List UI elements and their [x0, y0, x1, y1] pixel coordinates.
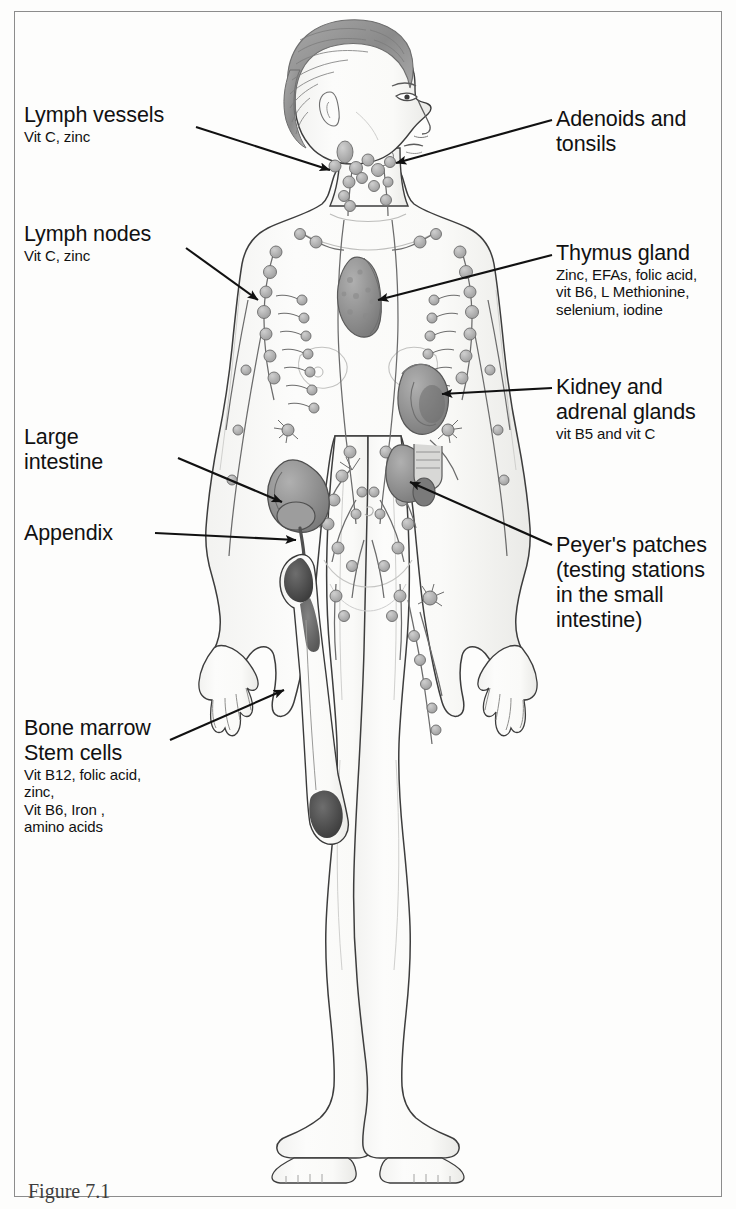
label-bone-marrow-title-line1: Bone marrow — [24, 716, 151, 741]
kidney-adrenal-organ — [398, 364, 449, 434]
hand-right — [478, 645, 537, 735]
label-bone-marrow-title-line2: Stem cells — [24, 741, 151, 766]
figure-caption: Figure 7.1 — [28, 1180, 110, 1203]
label-bone-marrow-sub-2: Vit B6, Iron , — [24, 801, 151, 818]
figure-page: Lymph vessels Vit C, zinc Lymph nodes Vi… — [0, 0, 736, 1209]
hand-left — [199, 645, 258, 735]
label-appendix: Appendix — [24, 521, 113, 546]
label-kidney-adrenal-title-line2: adrenal glands — [556, 400, 696, 425]
foot-right — [380, 1158, 464, 1183]
label-kidney-adrenal-sub-0: vit B5 and vit C — [556, 425, 696, 442]
label-adenoids-tonsils-title-line1: Adenoids and — [556, 107, 686, 132]
label-lymph-vessels-sub-0: Vit C, zinc — [24, 128, 164, 145]
label-peyers-patches-sub-0: (testing stations — [556, 558, 707, 583]
label-thymus-gland-sub-0: Zinc, EFAs, folic acid, — [556, 266, 697, 283]
label-lymph-vessels: Lymph vessels Vit C, zinc — [24, 103, 164, 145]
label-large-intestine: Large intestine — [24, 425, 103, 475]
label-lymph-vessels-title: Lymph vessels — [24, 103, 164, 128]
label-bone-marrow-sub-1: zinc, — [24, 783, 151, 800]
caecum — [277, 502, 315, 530]
label-adenoids-tonsils-title-line2: tonsils — [556, 132, 686, 157]
label-kidney-adrenal: Kidney and adrenal glands vit B5 and vit… — [556, 375, 696, 442]
label-peyers-patches-sub-1: in the small — [556, 583, 707, 608]
label-lymph-nodes-title: Lymph nodes — [24, 222, 151, 247]
label-bone-marrow-sub-3: amino acids — [24, 818, 151, 835]
label-lymph-nodes-sub-0: Vit C, zinc — [24, 247, 151, 264]
label-peyers-patches: Peyer's patches (testing stations in the… — [556, 533, 707, 633]
label-adenoids-tonsils: Adenoids and tonsils — [556, 107, 686, 157]
label-thymus-gland: Thymus gland Zinc, EFAs, folic acid, vit… — [556, 241, 697, 318]
label-thymus-gland-sub-2: selenium, iodine — [556, 301, 697, 318]
label-large-intestine-title-line1: Large — [24, 425, 103, 450]
label-kidney-adrenal-title-line1: Kidney and — [556, 375, 696, 400]
leader-adenoids-tonsils — [396, 120, 552, 163]
body-figure — [155, 20, 552, 1183]
label-peyers-patches-title: Peyer's patches — [556, 533, 707, 558]
label-large-intestine-title-line2: intestine — [24, 450, 103, 475]
peyers-patches-organ — [386, 444, 442, 506]
label-peyers-patches-sub-2: intestine) — [556, 608, 707, 633]
label-bone-marrow-sub-0: Vit B12, folic acid, — [24, 766, 151, 783]
label-bone-marrow: Bone marrow Stem cells Vit B12, folic ac… — [24, 716, 151, 835]
label-appendix-title: Appendix — [24, 521, 113, 546]
label-thymus-gland-title: Thymus gland — [556, 241, 697, 266]
label-thymus-gland-sub-1: vit B6, L Methionine, — [556, 283, 697, 300]
foot-left — [272, 1158, 356, 1183]
label-lymph-nodes: Lymph nodes Vit C, zinc — [24, 222, 151, 264]
